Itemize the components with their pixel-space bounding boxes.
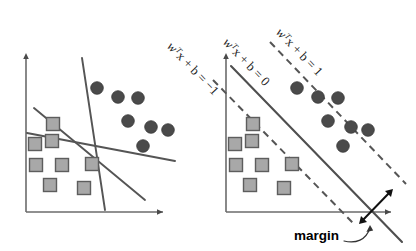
left-panel-squares [29,118,99,195]
data-point-square [78,182,91,195]
support-vector-square [286,158,299,171]
svm-margin-figure: wTx + b = −1 wTx + b = 0 wTx + b = 1 mar… [0,0,416,251]
data-point-square [86,158,99,171]
data-point-circle [122,115,135,128]
figure-canvas: wTx + b = −1 wTx + b = 0 wTx + b = 1 mar… [0,0,416,251]
data-point-square [244,179,257,192]
margin-callout-curve [344,228,370,242]
support-vector-circle [322,115,335,128]
label-minus1-body: x + b = −1 [173,48,222,98]
margin-label: margin [294,228,339,243]
data-point-square [230,159,243,172]
data-point-square [229,138,242,151]
data-point-circle [91,82,104,95]
data-point-square [46,135,59,148]
data-point-square [47,118,60,131]
support-vector-square [247,118,260,131]
data-point-square [246,135,259,148]
x-axis-arrowhead-left [157,209,163,215]
label-zero-body: x + b = 0 [229,44,273,88]
margin-callout [344,225,373,242]
data-point-square [44,179,57,192]
data-point-square [278,182,291,195]
y-axis-arrowhead-left [23,53,29,59]
support-vector-circle [291,82,304,95]
margin-double-arrow [359,189,393,224]
y-axis-arrowhead-right [223,53,229,59]
data-point-circle [145,121,158,134]
support-vector-circle [337,140,350,153]
data-point-square [29,138,42,151]
data-point-circle [345,121,358,134]
left-panel [23,53,175,215]
data-point-square [30,159,43,172]
data-point-circle [332,92,345,105]
left-panel-circles [91,82,175,153]
data-point-circle [132,92,145,105]
x-axis-arrowhead-right [385,209,391,215]
margin-callout-arrowhead [366,225,373,232]
label-plus1-body: x + b = 1 [282,34,326,78]
data-point-circle [112,91,125,104]
data-point-circle [362,124,375,137]
data-point-circle [312,91,325,104]
data-point-square [256,159,269,172]
margin-arrow-shaft [361,191,391,222]
right-panel-squares [229,118,299,195]
data-point-circle [162,124,175,137]
data-point-square [56,159,69,172]
data-point-circle [137,140,150,153]
